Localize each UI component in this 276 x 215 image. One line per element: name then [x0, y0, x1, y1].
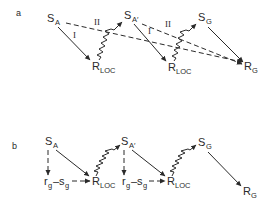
zigzag-r-loc-to-s-a-prime: [94, 149, 114, 176]
svg-text:LOC: LOC: [175, 181, 191, 190]
svg-text:g: g: [143, 181, 147, 190]
node-s-a-prime: S A′: [121, 135, 136, 150]
node-r-g: R G: [244, 60, 258, 75]
arrow-s-a-prime-to-r-loc: [132, 150, 165, 176]
svg-text:R: R: [167, 175, 175, 187]
zigzag-arrowhead-2: [189, 24, 196, 31]
svg-text:R: R: [244, 60, 252, 72]
node-s-a-prime: S A′: [124, 9, 139, 24]
node-rg-sg-1: r g – s g: [44, 175, 69, 190]
svg-text:S: S: [124, 9, 131, 21]
svg-text:R: R: [168, 61, 176, 73]
svg-text:LOC: LOC: [176, 67, 192, 76]
node-r-g: R G: [243, 185, 257, 200]
path-label-i-1: I: [73, 30, 76, 40]
zigzag-arrowhead-b2: [190, 145, 196, 150]
panel-a-letter: a: [16, 8, 21, 18]
zigzag-r-loc-to-s-a-prime: [97, 29, 114, 60]
svg-text:A: A: [55, 18, 60, 27]
node-s-a: S A: [45, 135, 58, 150]
dashed-arrow-s-a-prime-to-r-g: [142, 24, 242, 64]
diagram-canvas: a S A S A′ S G R LOC R LOC R G I: [0, 0, 276, 215]
svg-text:R: R: [243, 185, 251, 197]
zigzag-arrowhead-b1: [114, 145, 120, 150]
panel-b-letter: b: [12, 141, 17, 151]
svg-text:g: g: [126, 181, 130, 190]
path-label-ii-1: II: [94, 17, 100, 27]
svg-text:g: g: [48, 181, 52, 190]
node-rg-sg-2: r g – s g: [122, 175, 147, 190]
node-s-g: S G: [198, 11, 212, 26]
zigzag-r-loc-to-s-g: [170, 149, 190, 176]
svg-text:R: R: [92, 175, 100, 187]
svg-text:S: S: [198, 11, 205, 23]
node-r-loc-2: R LOC: [168, 61, 192, 76]
svg-text:S: S: [45, 135, 52, 147]
svg-text:A: A: [53, 141, 58, 150]
svg-text:G: G: [251, 191, 257, 200]
node-s-g: S G: [198, 136, 212, 151]
arrow-s-g-to-r-g: [208, 27, 243, 62]
panel-a: a S A S A′ S G R LOC R LOC R G I: [16, 8, 258, 76]
node-r-loc-1: R LOC: [92, 60, 116, 75]
arrow-s-g-to-r-g: [208, 152, 241, 186]
svg-text:S: S: [121, 135, 128, 147]
svg-text:G: G: [252, 66, 258, 75]
zigzag-arrowhead-1: [114, 22, 122, 30]
node-r-loc-2: R LOC: [167, 175, 191, 190]
svg-text:A′: A′: [129, 141, 136, 150]
svg-text:R: R: [92, 60, 100, 72]
svg-text:G: G: [206, 142, 212, 151]
svg-text:S: S: [198, 136, 205, 148]
zigzag-r-loc-to-s-g: [172, 30, 189, 61]
svg-text:G: G: [206, 17, 212, 26]
svg-text:S: S: [47, 12, 54, 24]
svg-text:LOC: LOC: [100, 181, 116, 190]
node-s-a: S A: [47, 12, 60, 27]
svg-text:LOC: LOC: [100, 66, 116, 75]
arrow-s-a-to-r-loc: [56, 150, 89, 176]
path-label-ii-2: II: [165, 19, 171, 29]
svg-text:g: g: [65, 181, 69, 190]
node-r-loc-1: R LOC: [92, 175, 116, 190]
panel-b: b S A S A′ S G r g – s g R LOC r g –: [12, 135, 257, 200]
svg-text:A′: A′: [132, 15, 139, 24]
